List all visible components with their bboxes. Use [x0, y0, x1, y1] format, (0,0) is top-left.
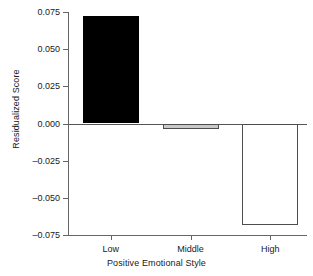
y-tick-mark: [63, 124, 68, 125]
y-tick-label: 0.050: [37, 44, 60, 54]
bar-middle: [163, 124, 219, 130]
y-tick-mark: [63, 86, 68, 87]
y-tick-label: –0.050: [32, 193, 60, 203]
x-tick-label: Middle: [177, 244, 204, 254]
bar-chart: Residualized Score 0.0750.0500.0250.000–…: [0, 0, 313, 276]
y-tick-label: –0.075: [32, 230, 60, 240]
plot-area: 0.0750.0500.0250.000–0.025–0.050–0.075 L…: [68, 12, 307, 235]
x-tick-label: Low: [103, 244, 120, 254]
x-tick-mark: [270, 235, 271, 240]
x-tick-mark: [111, 235, 112, 240]
y-tick-mark: [63, 198, 68, 199]
bar-high: [242, 124, 298, 225]
y-tick-mark: [63, 235, 68, 236]
y-tick-mark: [63, 161, 68, 162]
y-tick-label: 0.075: [37, 7, 60, 17]
y-tick-mark: [63, 12, 68, 13]
x-tick-label: High: [261, 244, 280, 254]
y-tick-label: 0.025: [37, 81, 60, 91]
y-tick-label: 0.000: [37, 119, 60, 129]
x-axis-title: Positive Emotional Style: [0, 258, 313, 268]
y-tick-label: –0.025: [32, 156, 60, 166]
y-axis-title: Residualized Score: [11, 49, 21, 169]
bar-low: [83, 16, 139, 123]
x-tick-mark: [191, 235, 192, 240]
y-tick-mark: [63, 49, 68, 50]
